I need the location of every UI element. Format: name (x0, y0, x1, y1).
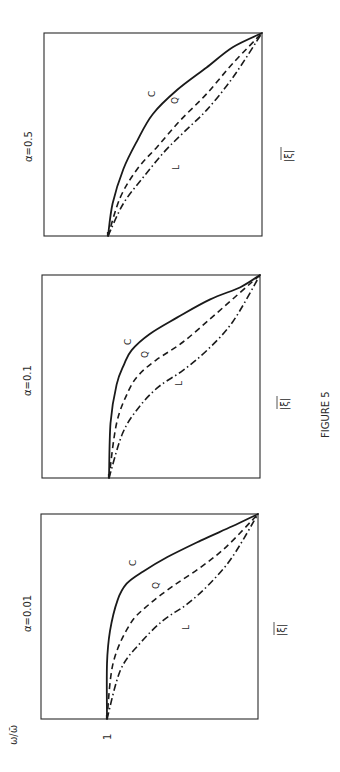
figure-5: α=0.5 |ξ| C Q L α=0.1 |ξ| C Q L α=0.01 |… (0, 0, 340, 772)
series-label-L: L (171, 165, 181, 170)
series-line-C (109, 275, 260, 478)
series-line-L (108, 33, 262, 236)
series-label-Q: Q (170, 97, 180, 104)
series-label-C: C (147, 91, 157, 97)
panel-alpha-0-01: α=0.01 |ξ| ω/ω̄ 1 C Q L (8, 514, 288, 745)
panel-frame (44, 33, 262, 236)
series-label-Q: Q (140, 351, 150, 358)
panel-title: α=0.5 (23, 131, 34, 162)
series-line-L (109, 275, 260, 478)
x-axis-label: |ξ| (283, 150, 295, 162)
figure-caption: FIGURE 5 (320, 391, 331, 438)
series-line-C (107, 514, 258, 719)
series-label-Q: Q (151, 582, 161, 589)
series-label-L: L (181, 625, 191, 630)
panel-title: α=0.1 (22, 365, 33, 396)
series-label-L: L (174, 381, 184, 386)
x-axis-label: |ξ| (276, 624, 288, 636)
panel-title: α=0.01 (22, 595, 33, 632)
y-axis-label: ω/ω̄ (8, 725, 19, 745)
series-label-C: C (128, 560, 138, 566)
series-label-C: C (123, 339, 133, 345)
panel-frame (41, 514, 258, 719)
series-line-Q (108, 33, 262, 236)
series-line-L (107, 514, 258, 719)
series-line-Q (107, 514, 258, 719)
x-axis-label: |ξ| (279, 398, 291, 410)
panel-alpha-0-5: α=0.5 |ξ| C Q L (23, 33, 295, 236)
series-line-C (108, 33, 262, 236)
panel-frame (42, 275, 260, 478)
y-tick-label-1: 1 (102, 734, 113, 740)
series-line-Q (109, 275, 260, 478)
panel-alpha-0-1: α=0.1 |ξ| C Q L (22, 275, 291, 478)
